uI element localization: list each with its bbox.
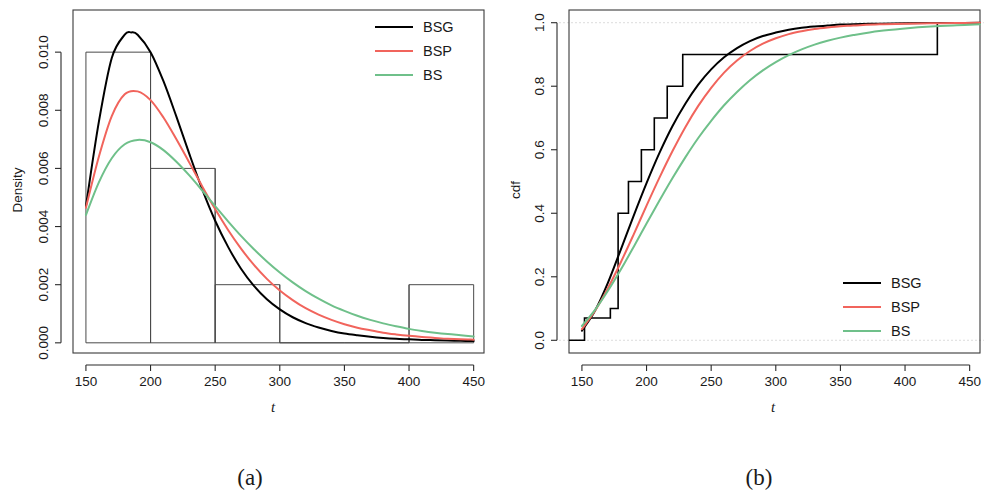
y-tick-label: 0.008 xyxy=(36,93,51,127)
x-tick-label: 150 xyxy=(75,374,98,389)
x-tick-label: 450 xyxy=(958,374,981,389)
legend-panel-a: BSGBSPBS xyxy=(367,11,477,91)
x-tick-label: 400 xyxy=(398,374,421,389)
subcaption-b: (b) xyxy=(746,465,773,490)
y-tick-label: 0.0 xyxy=(532,331,547,350)
legend-label-BSG: BSG xyxy=(891,275,922,291)
panel-a-svg: 150200250300350400450 0.0000.0020.0040.0… xyxy=(0,0,492,497)
x-axis: 150200250300350400450 xyxy=(571,365,981,389)
y-tick-label: 0.006 xyxy=(36,152,51,186)
legend-label-BSG: BSG xyxy=(423,19,454,35)
y-tick-label: 0.002 xyxy=(36,268,51,302)
panel-b-svg: 150200250300350400450 0.00.20.40.60.81.0… xyxy=(493,0,985,497)
histogram-bars xyxy=(86,52,474,343)
y-tick-label: 0.000 xyxy=(36,326,51,360)
x-axis-title: t xyxy=(771,399,776,415)
y-axis: 0.0000.0020.0040.0060.0080.010 xyxy=(36,35,61,359)
x-tick-label: 400 xyxy=(894,374,917,389)
x-tick-label: 350 xyxy=(829,374,852,389)
y-tick-label: 0.2 xyxy=(532,267,547,286)
x-tick-label: 350 xyxy=(333,374,356,389)
x-tick-label: 300 xyxy=(269,374,292,389)
y-tick-label: 0.010 xyxy=(36,35,51,69)
legend-label-BS: BS xyxy=(423,67,442,83)
panel-a-density: 150200250300350400450 0.0000.0020.0040.0… xyxy=(0,0,492,497)
x-tick-label: 150 xyxy=(571,374,594,389)
legend-label-BS: BS xyxy=(891,323,910,339)
legend-panel-b: BSGBSPBS xyxy=(835,267,945,347)
x-tick-label: 250 xyxy=(204,374,227,389)
x-tick-label: 450 xyxy=(462,374,485,389)
x-axis-title: t xyxy=(271,399,276,415)
legend-label-BSP: BSP xyxy=(423,43,452,59)
y-axis: 0.00.20.40.60.81.0 xyxy=(532,13,557,349)
x-tick-label: 300 xyxy=(765,374,788,389)
y-tick-label: 0.8 xyxy=(532,77,547,96)
x-tick-label: 200 xyxy=(139,374,162,389)
y-axis-title: Density xyxy=(10,167,25,212)
y-tick-label: 1.0 xyxy=(532,13,547,32)
y-axis-title: cdf xyxy=(508,181,523,199)
figure-container: 150200250300350400450 0.0000.0020.0040.0… xyxy=(0,0,985,497)
panel-b-cdf: 150200250300350400450 0.00.20.40.60.81.0… xyxy=(493,0,985,497)
y-tick-label: 0.004 xyxy=(36,209,51,243)
legend-label-BSP: BSP xyxy=(891,299,920,315)
y-tick-label: 0.6 xyxy=(532,140,547,159)
y-tick-label: 0.4 xyxy=(532,203,547,222)
x-tick-label: 200 xyxy=(635,374,658,389)
x-tick-label: 250 xyxy=(700,374,723,389)
subcaption-a: (a) xyxy=(237,465,263,490)
x-axis: 150200250300350400450 xyxy=(75,365,485,389)
